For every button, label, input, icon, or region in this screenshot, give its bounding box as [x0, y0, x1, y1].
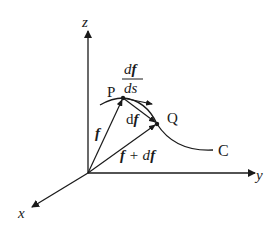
tangent-fraction: df ds [122, 61, 143, 96]
vector-f-label: f [95, 125, 102, 141]
z-axis-label: z [81, 14, 88, 30]
num-vec: f [132, 61, 139, 77]
fraction-numerator: df [124, 61, 139, 77]
diagram-canvas: z y x C P Q f df f + df df ds [0, 0, 276, 232]
point-q-label: Q [167, 110, 178, 126]
point-p [121, 96, 125, 100]
fdf-b: f [150, 147, 157, 163]
vector-f [88, 100, 122, 173]
x-axis [32, 173, 88, 207]
axes [32, 31, 255, 207]
y-axis-label: y [254, 167, 263, 183]
vector-df-label: df [126, 111, 141, 127]
fraction-denominator: ds [124, 80, 138, 96]
fdf-op: + d [125, 147, 151, 163]
df-vec: f [134, 111, 141, 127]
point-p-label: P [107, 84, 115, 100]
curve-c-label: C [218, 142, 229, 159]
point-q [155, 122, 159, 126]
x-axis-label: x [17, 205, 25, 221]
vector-f-plus-df-label: f + df [120, 147, 157, 163]
